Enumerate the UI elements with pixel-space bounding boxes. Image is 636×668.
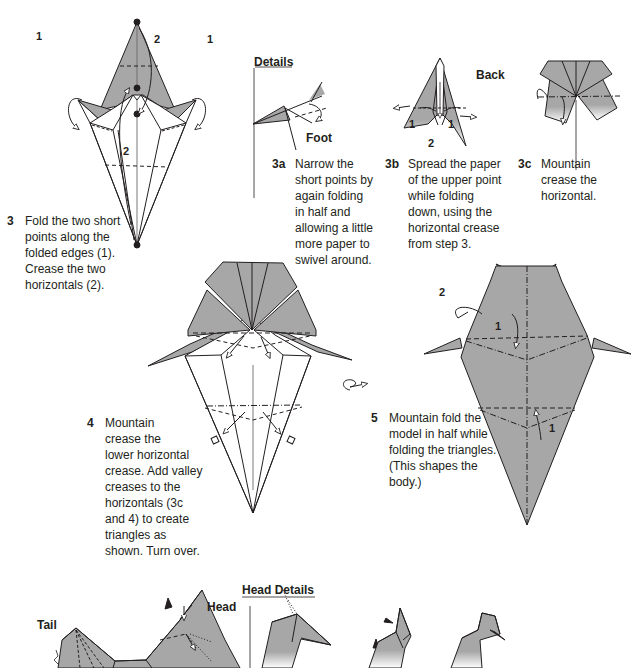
- step-text-line: down, using the: [385, 204, 515, 220]
- step-text-line: horizontals (3c: [87, 495, 207, 511]
- step-text-line: swivel around.: [272, 252, 392, 268]
- step-text-line: short points by: [272, 172, 392, 188]
- step-number: 5: [371, 410, 378, 426]
- step-text-line: points along the: [7, 229, 137, 245]
- head-details-label: Head Details: [242, 583, 314, 597]
- step3-marker-left: 1: [36, 30, 42, 42]
- foot-label: Foot: [306, 131, 332, 145]
- step-text-line: while folding: [385, 188, 515, 204]
- back-label: Back: [476, 68, 505, 82]
- step-text-line: folded edges (1).: [7, 245, 137, 261]
- step3c-caption: 3c Mountain crease the horizontal.: [518, 156, 628, 204]
- turn-over-icon: [343, 380, 365, 390]
- step-text-line: allowing a little: [272, 220, 392, 236]
- step-text-line: (This shapes the: [371, 458, 501, 474]
- step-text-line: from step 3.: [385, 236, 515, 252]
- step-text-line: lower horizontal: [87, 447, 207, 463]
- details-label: Details: [254, 55, 293, 69]
- step-text-line: crease the: [518, 172, 628, 188]
- step-text-line: horizontals (2).: [7, 277, 137, 293]
- step-text-line: in half and: [272, 204, 392, 220]
- step-text-line: again folding: [272, 188, 392, 204]
- tail-label: Tail: [37, 618, 57, 632]
- step-text-line: horizontal.: [518, 188, 628, 204]
- step3b-marker-left: 1: [409, 118, 415, 130]
- step3-marker-right: 1: [207, 33, 213, 45]
- step-text-line: Crease the two: [7, 261, 137, 277]
- step-number: 4: [87, 415, 94, 431]
- step5-marker-2: 2: [439, 286, 445, 298]
- step-number: 3c: [518, 156, 531, 172]
- step-text-line: crease. Add valley: [87, 463, 207, 479]
- step-number: 3: [7, 213, 14, 229]
- step-text-line: shown. Turn over.: [87, 543, 207, 559]
- head-label: Head: [207, 600, 236, 614]
- step3a-caption: 3a Narrow the short points by again fold…: [272, 156, 392, 268]
- step3b-diagram: [396, 58, 474, 146]
- step-text-line: Mountain: [518, 156, 628, 172]
- step-text-line: creases to the: [87, 479, 207, 495]
- step-text-line: Spread the paper: [385, 156, 515, 172]
- step5-marker-1-bottom: 1: [549, 422, 555, 434]
- step3b-caption: 3b Spread the paper of the upper point w…: [385, 156, 515, 252]
- step5-caption: 5 Mountain fold the model in half while …: [371, 410, 501, 490]
- step3-caption: 3 Fold the two short points along the fo…: [7, 213, 137, 293]
- step3c-diagram: [537, 61, 620, 170]
- step-text-line: folding the triangles.: [371, 442, 501, 458]
- step4-caption: 4 Mountain crease the lower horizontal c…: [87, 415, 207, 559]
- step5-marker-1-top: 1: [495, 320, 501, 332]
- step-text-line: Narrow the: [272, 156, 392, 172]
- step-number: 3b: [385, 156, 399, 172]
- step-text-line: horizontal crease: [385, 220, 515, 236]
- step3b-marker-right: 1: [448, 118, 454, 130]
- tail-head-diagram: [54, 590, 505, 668]
- step-text-line: triangles as: [87, 527, 207, 543]
- step3-marker-lower: 2: [123, 145, 129, 157]
- step-text-line: Fold the two short: [7, 213, 137, 229]
- step3b-marker-bottom: 2: [428, 137, 434, 149]
- step-text-line: and 4) to create: [87, 511, 207, 527]
- step-text-line: crease the: [87, 431, 207, 447]
- step-text-line: Mountain: [87, 415, 207, 431]
- step-text-line: more paper to: [272, 236, 392, 252]
- step-number: 3a: [272, 156, 285, 172]
- origami-diagram-artwork: [0, 0, 636, 668]
- step-text-line: body.): [371, 474, 501, 490]
- step-text-line: Mountain fold the: [371, 410, 501, 426]
- step-text-line: of the upper point: [385, 172, 515, 188]
- step3-marker-upper: 2: [154, 33, 160, 45]
- step-text-line: model in half while: [371, 426, 501, 442]
